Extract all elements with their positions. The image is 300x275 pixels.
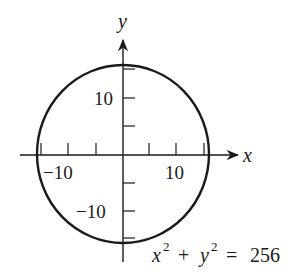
- y-tick-label-10: 10: [94, 88, 113, 109]
- circle-graph: y x 10 −10 −10 10 x 2 + y 2 = 256: [0, 0, 300, 275]
- x-axis-label: x: [242, 144, 252, 166]
- svg-text:2: 2: [211, 239, 218, 254]
- y-axis-label: y: [116, 10, 127, 33]
- svg-text:256: 256: [250, 244, 280, 266]
- svg-text:=: =: [226, 244, 237, 266]
- svg-text:y: y: [198, 244, 209, 267]
- y-ticks: [123, 69, 135, 238]
- y-tick-label-neg10: −10: [76, 201, 106, 222]
- x-tick-label-neg10: −10: [43, 162, 73, 183]
- equation-label: x 2 + y 2 = 256: [151, 239, 280, 267]
- svg-text:+: +: [178, 244, 189, 266]
- x-tick-label-10: 10: [165, 162, 184, 183]
- svg-text:2: 2: [163, 239, 170, 254]
- svg-text:x: x: [151, 244, 161, 266]
